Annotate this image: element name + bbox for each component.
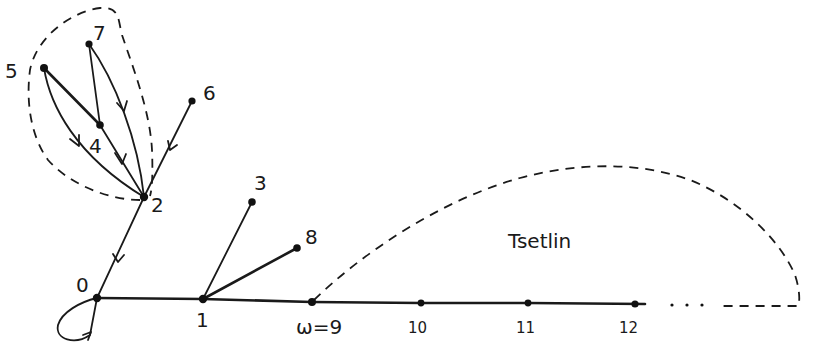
node-12: [631, 300, 638, 307]
region-label-tsetlin: Tsetlin: [507, 229, 571, 253]
arrow-6-2: [168, 141, 177, 150]
label-node-8: 8: [305, 225, 318, 249]
node-9: [308, 298, 316, 306]
label-node-1: 1: [196, 308, 209, 332]
edge-0-1: [97, 298, 203, 299]
label-node-0: 0: [76, 273, 89, 297]
node-6: [188, 97, 195, 104]
label-node-11: 11: [516, 319, 535, 337]
node-4: [96, 121, 104, 129]
node-2: [140, 193, 148, 201]
node-11: [525, 300, 532, 307]
label-node-9: ω=9: [296, 315, 342, 339]
dashed-cluster-boundary: [29, 8, 153, 200]
edge-7-4: [89, 44, 100, 125]
label-node-12: 12: [619, 319, 638, 337]
edge-11-12: [528, 303, 645, 304]
node-7: [85, 40, 92, 47]
label-node-7: 7: [93, 21, 106, 45]
label-node-5: 5: [5, 59, 18, 83]
edge-9-10: [312, 302, 421, 303]
node-5: [40, 64, 48, 72]
node-0: [93, 294, 101, 302]
edge-1-9: [203, 299, 312, 302]
node-3: [248, 198, 256, 206]
label-node-4: 4: [89, 134, 102, 158]
label-node-2: 2: [151, 193, 164, 217]
node-8: [293, 244, 301, 252]
node-10: [418, 300, 425, 307]
label-node-6: 6: [203, 81, 216, 105]
node-1: [199, 295, 207, 303]
edge-1-8: [203, 248, 297, 299]
label-node-3: 3: [254, 171, 267, 195]
graph-diagram: 0 1 2 3 4 5 6 7 8 ω=9 10 11 12 Tsetlin: [0, 0, 815, 354]
ellipsis: [670, 303, 703, 306]
edge-2-0: [97, 197, 144, 298]
label-node-10: 10: [408, 319, 427, 337]
